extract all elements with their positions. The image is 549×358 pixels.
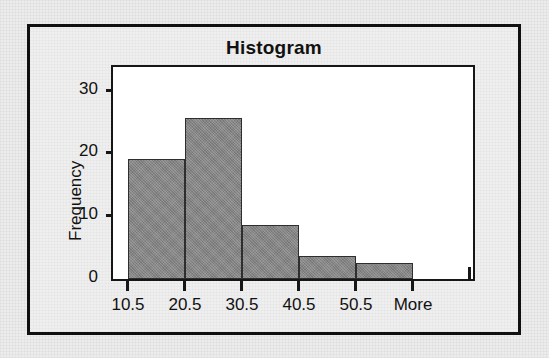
x-tick-label-more: More [383, 295, 443, 315]
bars-layer [113, 67, 473, 279]
histogram-bar-50-5 [356, 263, 413, 279]
x-tick-mark-2 [240, 279, 243, 291]
x-tick-mark-6 [468, 267, 471, 279]
histogram-bar-10-5 [128, 159, 185, 279]
y-tick-label-0: 0 [58, 267, 98, 287]
y-axis-title: Frequency [66, 161, 86, 241]
x-tick-label-10-5: 10.5 [98, 295, 158, 315]
x-tick-label-30-5: 30.5 [212, 295, 272, 315]
x-tick-mark-4 [354, 279, 357, 291]
x-tick-label-20-5: 20.5 [155, 295, 215, 315]
plot-area [111, 65, 475, 281]
x-tick-mark-1 [183, 279, 186, 291]
x-tick-mark-3 [297, 279, 300, 291]
x-tick-label-40-5: 40.5 [269, 295, 329, 315]
histogram-bar-20-5 [185, 118, 242, 279]
x-tick-label-50-5: 50.5 [326, 295, 386, 315]
y-tick-label-10: 10 [58, 204, 98, 224]
histogram-bar-40-5 [299, 256, 356, 279]
chart-title: Histogram [30, 37, 518, 59]
y-tick-label-20: 20 [58, 141, 98, 161]
y-tick-label-30: 30 [58, 79, 98, 99]
histogram-bar-30-5 [242, 225, 299, 279]
x-tick-mark-0 [126, 279, 129, 291]
x-tick-mark-5 [411, 279, 414, 291]
chart-frame: Histogram Frequency 30 20 10 0 10.5 20.5… [27, 24, 521, 335]
